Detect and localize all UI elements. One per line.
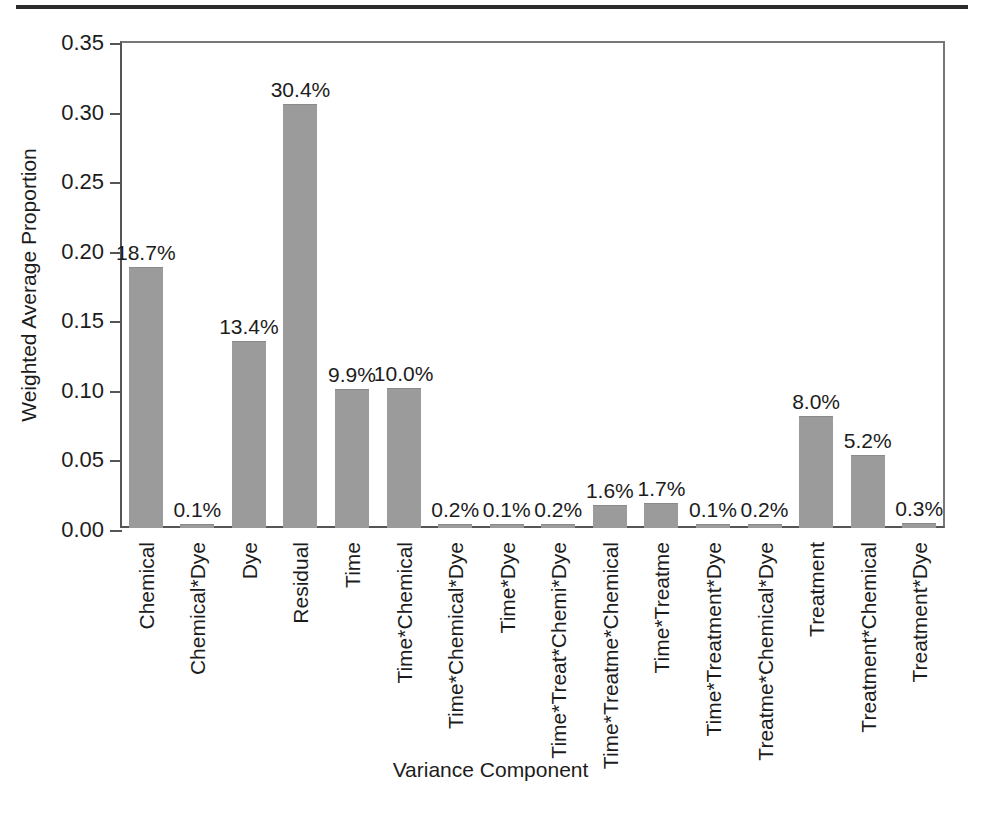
x-axis-tick-label-text: Time*Dye bbox=[496, 542, 517, 633]
x-axis-tick-label-text: Treatment*Chemical bbox=[857, 542, 878, 733]
y-axis-title: Weighted Average Proportion bbox=[14, 41, 44, 528]
x-axis-tick-label-text: Treatme*Chemical*Dye bbox=[754, 542, 775, 761]
x-axis-tick-label-text: Time*Treatme bbox=[651, 542, 672, 673]
y-axis-tick-label: 0.35 bbox=[61, 32, 104, 54]
x-axis-tick-label-text: Treatment bbox=[806, 542, 827, 637]
x-axis-tick-labels: ChemicalChemical*DyeDyeResidualTimeTime*… bbox=[120, 528, 945, 758]
plot-area-frame: 0.000.050.100.150.200.250.300.35 bbox=[120, 41, 945, 528]
y-axis-tick-label: 0.20 bbox=[61, 241, 104, 263]
x-axis-tick-label-text: Time*Chemical bbox=[393, 542, 414, 684]
y-axis-tick bbox=[110, 182, 122, 184]
y-axis-tick bbox=[110, 113, 122, 115]
x-axis-tick-label-text: Time*Treat*Chemi*Dye bbox=[548, 542, 569, 759]
y-axis-title-text: Weighted Average Proportion bbox=[17, 148, 41, 422]
y-axis-tick bbox=[110, 391, 122, 393]
x-axis-tick-label-text: Time*Treatme*Chemical bbox=[599, 542, 620, 769]
y-axis-tick-label: 0.25 bbox=[61, 171, 104, 193]
y-axis-tick bbox=[110, 460, 122, 462]
x-axis-tick-label-text: Residual bbox=[290, 542, 311, 624]
y-axis-tick bbox=[110, 321, 122, 323]
x-axis-tick-label-text: Time*Treatment*Dye bbox=[702, 542, 723, 737]
top-horizontal-rule bbox=[16, 5, 968, 9]
y-axis-tick-label: 0.10 bbox=[61, 380, 104, 402]
y-axis-tick-label: 0.00 bbox=[61, 519, 104, 541]
y-axis-tick bbox=[110, 43, 122, 45]
x-axis-tick-label-text: Time bbox=[342, 542, 363, 588]
x-axis-tick-label-text: Dye bbox=[238, 542, 259, 579]
x-axis-tick-label-text: Chemical bbox=[135, 542, 156, 630]
y-axis-tick bbox=[110, 252, 122, 254]
y-axis-tick-label: 0.15 bbox=[61, 310, 104, 332]
y-axis-tick-label: 0.05 bbox=[61, 449, 104, 471]
x-axis-tick-label-text: Chemical*Dye bbox=[187, 542, 208, 675]
variance-component-bar-chart-figure: Weighted Average Proportion 0.000.050.10… bbox=[0, 0, 981, 826]
x-axis-title: Variance Component bbox=[0, 758, 981, 782]
y-axis-tick-label: 0.30 bbox=[61, 102, 104, 124]
x-axis-tick-label-text: Time*Chemical*Dye bbox=[445, 542, 466, 729]
x-axis-tick-label-text: Treatment*Dye bbox=[909, 542, 930, 682]
